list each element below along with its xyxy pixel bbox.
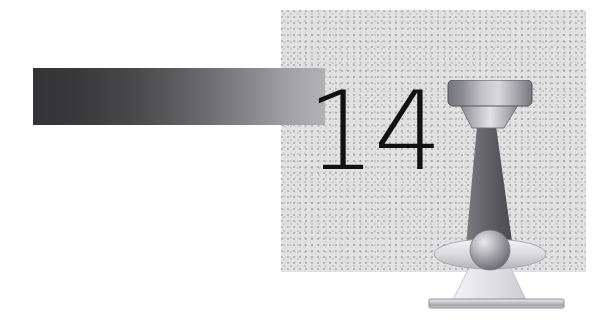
specimen-sphere-shape bbox=[470, 230, 510, 270]
chapter-gradient-bar bbox=[33, 68, 325, 125]
lamp-housing-shape bbox=[448, 80, 532, 106]
illustration-title: microscope-light-illustration bbox=[0, 0, 1, 1]
stage-bar-shape bbox=[429, 299, 564, 308]
chapter-opener-page: 14 bbox=[0, 0, 613, 327]
lamp-reflector-cone-shape bbox=[460, 105, 518, 128]
illustration-svg bbox=[420, 80, 585, 320]
microscope-light-illustration bbox=[420, 80, 585, 320]
